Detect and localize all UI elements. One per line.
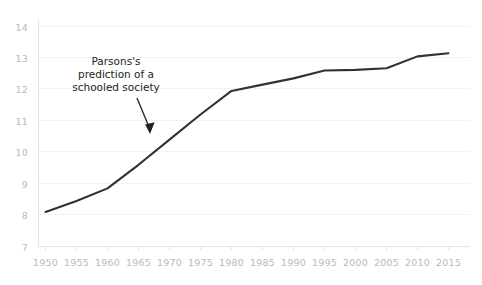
y-tick-label-14: 14 [0, 21, 28, 32]
x-tick-label-2015: 2015 [436, 257, 461, 268]
annotation-label: Parsons's prediction of a schooled socie… [62, 55, 170, 94]
x-tick-label-2000: 2000 [343, 257, 368, 268]
line-chart: 14 13 12 11 10 9 8 7 1950 1955 1960 1965… [0, 0, 482, 285]
y-tick-label-9: 9 [0, 178, 28, 189]
x-tick-label-1960: 1960 [95, 257, 120, 268]
x-tick-label-1955: 1955 [64, 257, 89, 268]
y-tick-label-11: 11 [0, 115, 28, 126]
x-tick-label-2010: 2010 [405, 257, 430, 268]
x-tick-label-1990: 1990 [281, 257, 306, 268]
x-tick-label-1950: 1950 [33, 257, 58, 268]
annotation-arrow [137, 98, 155, 134]
annotation-arrow-head [145, 122, 154, 134]
x-tick-label-1975: 1975 [188, 257, 213, 268]
annotation-arrow-shaft [137, 98, 149, 127]
y-tick-label-7: 7 [0, 241, 28, 252]
x-tick-label-2005: 2005 [374, 257, 399, 268]
y-tick-label-13: 13 [0, 52, 28, 63]
y-tick-label-10: 10 [0, 146, 28, 157]
y-tick-label-12: 12 [0, 83, 28, 94]
x-tick-label-1965: 1965 [126, 257, 151, 268]
x-tick-label-1985: 1985 [250, 257, 275, 268]
x-tick-label-1970: 1970 [157, 257, 182, 268]
x-tick-label-1980: 1980 [219, 257, 244, 268]
plot-area [0, 0, 482, 285]
y-tick-label-8: 8 [0, 209, 28, 220]
x-tick-label-1995: 1995 [312, 257, 337, 268]
